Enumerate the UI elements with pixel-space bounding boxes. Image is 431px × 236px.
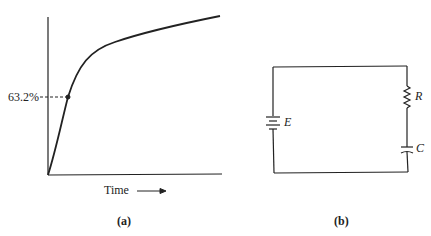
panel-a-chart: [40, 16, 222, 194]
battery-label: E: [284, 115, 291, 130]
marker-point: [66, 95, 70, 99]
resistor-label: R: [415, 89, 422, 104]
figure-canvas: [0, 0, 431, 236]
resistor-symbol: [404, 86, 410, 108]
charging-curve: [48, 16, 220, 175]
x-axis-label: Time: [104, 183, 129, 198]
caption-b: (b): [334, 214, 349, 229]
x-axis: [48, 174, 222, 175]
capacitor-label: C: [416, 141, 424, 156]
time-arrow-head: [160, 189, 166, 194]
caption-a: (a): [117, 214, 131, 229]
battery-symbol: [266, 117, 280, 129]
y-marker-label: 63.2%: [8, 90, 39, 105]
